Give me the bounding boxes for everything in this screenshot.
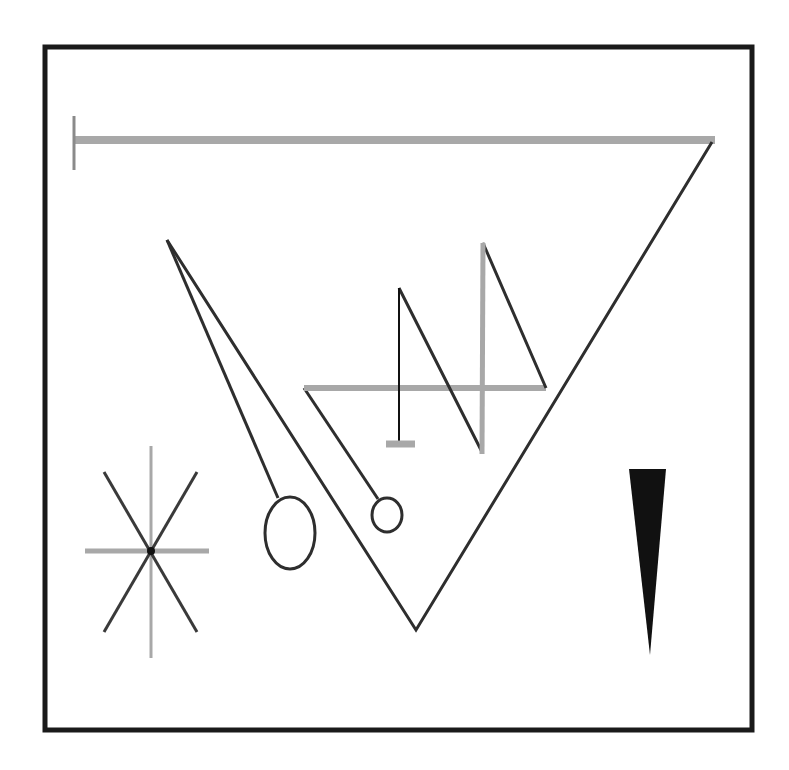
diagram-canvas [0, 0, 789, 770]
zigzag-gray-vertical [482, 243, 483, 454]
star-center-dot [147, 547, 155, 555]
